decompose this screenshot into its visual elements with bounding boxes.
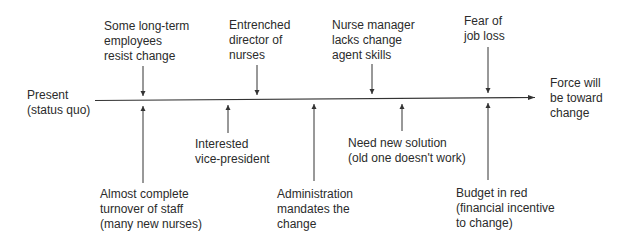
restraining-force-label: Nurse manager lacks change agent skills	[332, 18, 415, 63]
end-label: Force will be toward change	[550, 76, 603, 121]
status-quo-axis	[95, 98, 535, 101]
driving-force-label: Almost complete turnover of staff (many …	[100, 187, 202, 232]
start-label: Present (status quo)	[27, 88, 90, 118]
driving-force-label: Administration mandates the change	[277, 187, 353, 232]
driving-force-label: Interested vice-president	[195, 137, 270, 167]
restraining-force-label: Entrenched director of nurses	[229, 18, 290, 63]
driving-force-label: Need new solution (old one doesn't work)	[348, 136, 466, 166]
restraining-force-label: Fear of job loss	[464, 14, 505, 44]
restraining-force-label: Some long-term employees resist change	[104, 19, 189, 64]
driving-force-label: Budget in red (financial incentive to ch…	[456, 186, 555, 231]
